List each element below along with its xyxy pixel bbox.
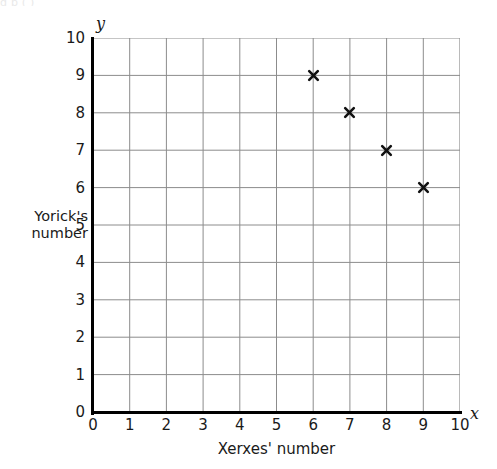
data-point-marker: [380, 144, 393, 157]
x-tick-label-5: 5: [262, 418, 292, 433]
y-axis-title-line-1: Yorick's: [6, 208, 88, 225]
x-tick-label-2: 2: [151, 418, 181, 433]
y-axis-line: [91, 37, 94, 415]
x-axis-title: Xerxes' number: [93, 440, 460, 458]
chart-figure: g p ( ) y x 012345678910 012345678910 Yo…: [0, 0, 497, 469]
grid-lines: [93, 38, 460, 412]
y-tick-label-9: 9: [57, 68, 85, 83]
x-tick-label-9: 9: [408, 418, 438, 433]
x-tick-label-3: 3: [188, 418, 218, 433]
data-point-marker: [417, 181, 430, 194]
y-tick-label-6: 6: [57, 181, 85, 196]
y-tick-label-7: 7: [57, 143, 85, 158]
y-tick-label-4: 4: [57, 255, 85, 270]
x-tick-label-1: 1: [115, 418, 145, 433]
data-point-marker: [343, 106, 356, 119]
y-tick-label-8: 8: [57, 106, 85, 121]
x-tick-label-0: 0: [78, 418, 108, 433]
y-axis-title: Yorick's number: [6, 208, 88, 242]
x-tick-label-8: 8: [372, 418, 402, 433]
x-tick-label-7: 7: [335, 418, 365, 433]
x-axis-line: [91, 411, 462, 414]
y-tick-label-10: 10: [57, 31, 85, 46]
plot-area: [93, 38, 460, 412]
y-tick-label-1: 1: [57, 368, 85, 383]
x-tick-label-6: 6: [298, 418, 328, 433]
x-tick-label-4: 4: [225, 418, 255, 433]
data-point-marker: [307, 69, 320, 82]
y-axis-variable-label: y: [96, 14, 105, 33]
x-tick-label-10: 10: [445, 418, 475, 433]
y-tick-label-3: 3: [57, 293, 85, 308]
y-tick-label-2: 2: [57, 330, 85, 345]
y-axis-title-line-2: number: [6, 225, 88, 242]
